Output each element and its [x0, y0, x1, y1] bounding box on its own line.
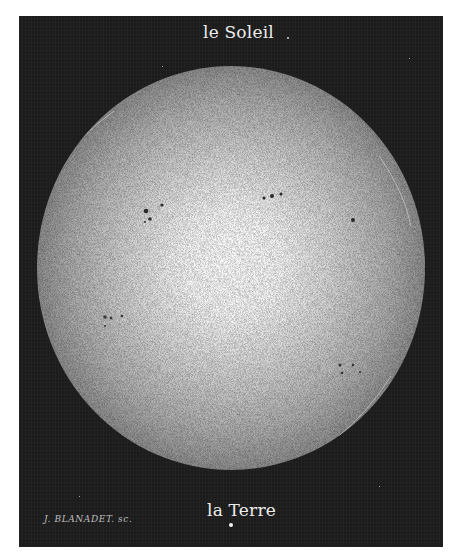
- star-speck: [409, 58, 410, 59]
- star-speck: [287, 37, 289, 39]
- earth-label: la Terre: [207, 500, 276, 520]
- star-speck: [379, 486, 380, 487]
- star-speck: [162, 66, 163, 67]
- engraver-signature: J. BLANADET. sc.: [44, 514, 132, 524]
- earth-dot-icon: [229, 523, 233, 527]
- sun-label: le Soleil: [203, 22, 274, 42]
- engraving-plate: [19, 16, 443, 547]
- sun-disk: [19, 16, 443, 547]
- sunspot-east: [351, 218, 355, 222]
- star-speck: [79, 496, 80, 497]
